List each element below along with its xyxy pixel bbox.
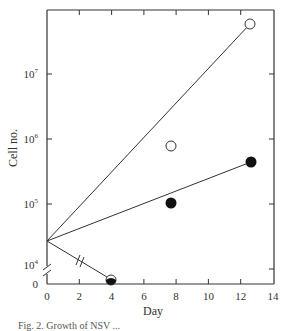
series-lines	[47, 24, 251, 280]
svg-text:14: 14	[268, 290, 280, 302]
svg-text:106: 106	[24, 132, 39, 145]
filled-circle-marker	[246, 157, 257, 168]
x-tick-labels: 0 2 4 6 8 10 12 14	[44, 290, 279, 302]
y-tick-labels: 107 106 105 104 0	[24, 67, 39, 290]
svg-text:0: 0	[44, 290, 50, 302]
figure-caption: Fig. 2. Growth of NSV ...	[18, 320, 120, 331]
y-axis-title: Cell no.	[6, 129, 20, 167]
open-series-line	[47, 24, 250, 241]
svg-text:2: 2	[77, 290, 83, 302]
svg-text:105: 105	[24, 197, 39, 210]
svg-text:10: 10	[203, 290, 215, 302]
data-points	[106, 19, 257, 285]
svg-text:12: 12	[235, 290, 246, 302]
declining-series-line	[47, 241, 112, 280]
open-circle-marker	[245, 19, 255, 29]
svg-text:0: 0	[33, 278, 39, 290]
svg-text:6: 6	[141, 290, 147, 302]
x-axis-title: Day	[143, 304, 163, 318]
svg-text:4: 4	[109, 290, 115, 302]
plot-frame	[47, 10, 274, 284]
filled-circle-marker	[166, 198, 177, 209]
open-circle-marker	[166, 141, 176, 151]
svg-text:107: 107	[24, 67, 39, 80]
half-filled-circle-marker	[106, 275, 116, 285]
svg-text:104: 104	[24, 258, 39, 271]
filled-series-line	[47, 162, 251, 241]
y-ticks	[47, 74, 274, 269]
svg-text:8: 8	[173, 290, 179, 302]
x-ticks	[79, 10, 240, 284]
